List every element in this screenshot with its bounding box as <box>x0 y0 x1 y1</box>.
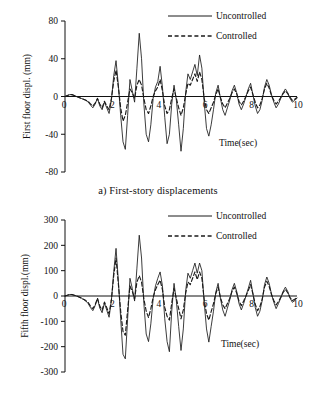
x-tick-label: 0 <box>62 299 67 309</box>
y-tick-label: -100 <box>41 317 59 327</box>
legend-label-controlled: Controlled <box>216 31 257 41</box>
caption-first-story: a) First-story displacements <box>0 185 316 196</box>
y-tick-label: -80 <box>45 167 58 177</box>
x-tick-label: 4 <box>156 299 161 309</box>
x-tick-label: 8 <box>249 299 254 309</box>
fifth-story-plot: 3002001000-100-200-3000246810Fifth floor… <box>0 206 316 385</box>
y-tick-label: 200 <box>44 241 59 251</box>
y-tick-label: -40 <box>45 130 58 140</box>
y-tick-label: 300 <box>44 215 59 225</box>
series-line-uncontrolled <box>65 33 297 151</box>
x-tick-label: 4 <box>156 100 161 110</box>
legend-label-controlled: Controlled <box>216 231 257 241</box>
y-tick-label: 0 <box>53 291 58 301</box>
x-tick-label: 10 <box>293 100 303 110</box>
x-axis-title: Time(sec) <box>221 339 259 350</box>
series-line-controlled <box>65 258 297 335</box>
x-tick-label: 0 <box>62 100 67 110</box>
first-story-plot: 80400-40-800246810First floor displ. (mm… <box>0 0 316 185</box>
y-tick-label: 40 <box>49 54 59 64</box>
y-axis-title: First floor displ. (mm) <box>22 54 33 139</box>
legend-label-uncontrolled: Uncontrolled <box>216 11 266 21</box>
x-axis-title: Time(sec) <box>219 138 257 149</box>
displacement-figure: 80400-40-800246810First floor displ. (mm… <box>0 0 316 412</box>
legend-label-uncontrolled: Uncontrolled <box>216 211 266 221</box>
y-axis-title: Fifth floor displ.(mm) <box>20 254 31 338</box>
y-tick-label: 80 <box>49 16 59 26</box>
y-tick-label: -300 <box>41 367 59 377</box>
y-tick-label: 100 <box>44 266 59 276</box>
y-tick-label: 0 <box>53 92 58 102</box>
chart-panel-first-story: 80400-40-800246810First floor displ. (mm… <box>0 0 316 206</box>
x-tick-label: 8 <box>249 100 254 110</box>
series-line-controlled <box>65 70 297 121</box>
y-tick-label: -200 <box>41 342 59 352</box>
chart-panel-fifth-story: 3002001000-100-200-3000246810Fifth floor… <box>0 206 316 412</box>
